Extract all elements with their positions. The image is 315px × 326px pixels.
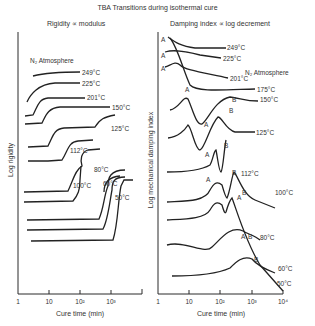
left-atmosphere-label: N₂ Atmosphere (30, 57, 74, 65)
label-112c-right: 112°C (241, 170, 259, 177)
svg-text:A: A (161, 65, 166, 72)
svg-text:B: B (242, 189, 246, 196)
right-xlabel: Cure time (min) (197, 310, 245, 318)
left-xtick-10: 10 (45, 298, 53, 305)
right-xtick-10: 10 (185, 298, 193, 305)
svg-text:A: A (205, 151, 210, 158)
svg-text:A: A (161, 36, 166, 43)
label-225c: 225°C (82, 80, 100, 87)
label-50c: 50°C (115, 194, 130, 201)
label-80c: 80°C (94, 166, 109, 173)
svg-text:A: A (185, 86, 190, 93)
right-xtick-1000: 10³ (247, 298, 257, 305)
label-100c-right: 100°C (275, 189, 293, 196)
svg-text:A: A (241, 233, 246, 240)
svg-text:B: B (229, 107, 233, 114)
right-atmosphere-label: N₂ Atmosphere (245, 69, 289, 77)
label-80c-right: 80°C (260, 234, 275, 241)
right-xtick-1: 1 (156, 298, 160, 305)
svg-text:B: B (248, 233, 252, 240)
label-150c: 150°C (112, 104, 130, 111)
label-249c-right: 249°C (227, 44, 245, 51)
label-249c: 249°C (82, 69, 100, 76)
label-50c-right: 50°C (277, 280, 292, 287)
svg-text:A: A (206, 176, 211, 183)
svg-text:B: B (254, 256, 258, 263)
left-xtick-100: 10² (75, 298, 85, 305)
right-xtick-100: 10² (215, 298, 225, 305)
rigidity-curves (24, 72, 133, 241)
label-125c: 125°C (111, 125, 129, 132)
label-125c-right: 125°C (256, 129, 274, 136)
svg-text:A: A (204, 121, 209, 128)
right-ylabel: Log mechanical damping index (147, 111, 155, 208)
left-ylabel: Log rigidity (7, 143, 15, 177)
label-201c: 201°C (87, 94, 105, 101)
right-xtick-10000: 10⁴ (278, 298, 288, 305)
svg-text:A: A (161, 52, 166, 59)
label-201c-right: 201°C (230, 75, 248, 82)
left-xtick-1000: 10³ (106, 298, 116, 305)
chart-canvas: 249°C 225°C 201°C 150°C 125°C 112°C 100°… (0, 0, 315, 326)
svg-text:B: B (224, 142, 228, 149)
svg-text:B: B (232, 169, 236, 176)
label-175c-right: 175°C (257, 86, 275, 93)
svg-text:B: B (232, 96, 236, 103)
left-xtick-1: 1 (16, 298, 20, 305)
label-225c-right: 225°C (223, 55, 241, 62)
label-60c-right: 60°C (278, 265, 293, 272)
label-112c: 112°C (70, 147, 88, 154)
label-60c: 60°C (103, 180, 118, 187)
label-150c-right: 150°C (260, 96, 278, 103)
left-xlabel: Cure time (min) (56, 310, 104, 318)
label-100c: 100°C (73, 182, 91, 189)
